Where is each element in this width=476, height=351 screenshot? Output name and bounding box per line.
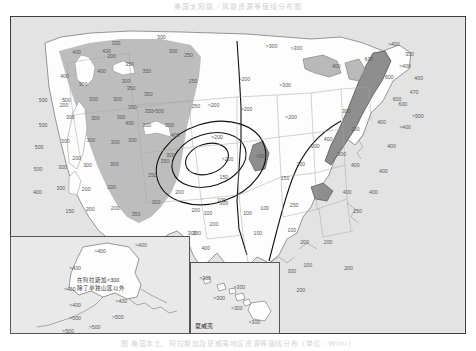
alaska-note-line1: 在阿拉斯加<300 — [77, 277, 119, 284]
contour-label: 100 — [254, 232, 263, 237]
contour-label: 400 — [332, 65, 341, 70]
contour-label: 150 — [66, 210, 75, 215]
contour-label: 200 — [111, 207, 120, 212]
contour-label: 300 — [91, 116, 100, 121]
contour-label: 200 — [324, 241, 333, 246]
contour-label: 300 — [220, 202, 229, 207]
contour-label: >400 — [116, 300, 128, 305]
contour-label: >200 — [208, 103, 220, 108]
contour-label: 400 — [125, 121, 134, 126]
contour-label: >400 — [69, 266, 81, 271]
contour-label: 500 — [39, 123, 48, 128]
figure-caption: 图 美国本土、阿拉斯加及夏威夷地区资源等值线分布（单位：W/m²） — [0, 337, 476, 351]
contour-label: 400 — [379, 169, 388, 174]
contour-label: 200 — [72, 157, 81, 162]
contour-label: 500 — [165, 123, 174, 128]
contour-label: >200 — [211, 136, 223, 141]
contour-label: 300 — [128, 138, 137, 143]
contour-label: >300 — [279, 83, 291, 88]
contour-label: 300 — [157, 35, 166, 40]
contour-label: 150 — [220, 175, 229, 180]
contour-label: 600 — [385, 76, 394, 81]
contour-label: 200 — [300, 241, 309, 246]
contour-label: 300 — [122, 79, 131, 84]
alaska-note-line2: 除了单独山区以外 — [77, 285, 125, 292]
contour-label: 300 — [166, 153, 175, 158]
contour-label: 300 — [58, 166, 67, 171]
contour-label: 150 — [281, 177, 290, 182]
contour-label: 600 — [365, 57, 374, 62]
contour-label: 400 — [60, 75, 69, 80]
contour-label: >500 — [112, 315, 124, 320]
contour-label: 300 — [110, 162, 119, 167]
contour-label: 300 — [152, 201, 161, 206]
contour-label: 200 — [191, 208, 200, 213]
contour-label: >200 — [222, 158, 234, 163]
contour-label: 200 — [107, 185, 116, 190]
contour-label: 400 — [171, 133, 180, 138]
contour-label: >500 — [62, 329, 74, 334]
contour-label: 300 — [117, 116, 126, 121]
contour-label: 400 — [201, 246, 210, 251]
contour-label: 100 — [288, 228, 297, 233]
contour-label: >500 — [89, 326, 101, 331]
hawaii-inset-title: 夏威夷 — [195, 321, 213, 330]
contour-label: 300 — [169, 49, 178, 54]
contour-label: >500 — [69, 316, 81, 321]
contour-label: >200 — [238, 77, 250, 82]
contour-label: >400 — [399, 125, 411, 130]
contour-label: 250 — [191, 104, 200, 109]
contour-label: >200 — [255, 155, 267, 160]
contour-label: 300 — [337, 152, 346, 157]
contour-label: 300 — [113, 98, 122, 103]
contour-label: 600 — [399, 102, 408, 107]
contour-label: 100 — [303, 263, 312, 268]
contour-label: >500 — [412, 115, 424, 120]
contour-label: 500 — [39, 99, 48, 104]
contour-label: >400 — [388, 42, 400, 47]
hawaii-inset: 夏威夷 >300>300>300>300>300 — [190, 262, 280, 334]
contour-label: 300 — [351, 128, 360, 133]
contour-label: 200 — [82, 187, 91, 192]
contour-label: 400 — [351, 163, 360, 168]
contour-label: 350 — [128, 106, 137, 111]
contour-label: >200 — [241, 107, 253, 112]
contour-label: 250 — [353, 210, 362, 215]
contour-label: 200 — [60, 103, 69, 108]
contour-label: 200 — [175, 191, 184, 196]
contour-label: 400 — [72, 51, 81, 56]
contour-label: 400 — [324, 138, 333, 143]
contour-label: 300 — [112, 41, 121, 46]
contour-label: 250 — [161, 159, 170, 164]
figure-page: 美国太阳能／风能资源等值线分布图 — [0, 0, 476, 351]
contour-label: 500 — [35, 146, 44, 151]
contour-label: 300 — [342, 109, 351, 114]
contour-label: 250 — [184, 54, 193, 59]
contour-label: 350 — [405, 53, 414, 58]
contour-label: 500 — [34, 168, 43, 173]
contour-label: 350 — [132, 213, 141, 218]
contour-label: 400 — [33, 191, 42, 196]
contour-label: 100 — [243, 211, 252, 216]
contour-label: 200 — [311, 144, 320, 149]
contour-label: 400 — [97, 70, 106, 75]
contour-label: 200 — [210, 222, 219, 227]
contour-label: >300 — [199, 276, 211, 281]
contour-label: 300 — [143, 123, 152, 128]
contour-label: 300 — [111, 140, 120, 145]
contour-label: 300 — [79, 83, 88, 88]
contour-label: 300 — [57, 186, 66, 191]
contour-label: 350 — [125, 62, 134, 67]
contour-label: 300 — [86, 139, 95, 144]
contour-label: >400 — [69, 304, 81, 309]
contour-label: 400 — [387, 144, 396, 149]
contour-label: 200 — [107, 55, 116, 60]
contour-label: >300 — [291, 46, 303, 51]
contour-label: 300 — [89, 97, 98, 102]
contour-label: 300 — [83, 163, 92, 168]
contour-label: >500 — [152, 109, 164, 114]
contour-label: >300 — [213, 297, 225, 302]
contour-label: 250 — [290, 203, 299, 208]
contour-label: 350 — [143, 70, 152, 75]
contour-label: 250 — [148, 173, 157, 178]
